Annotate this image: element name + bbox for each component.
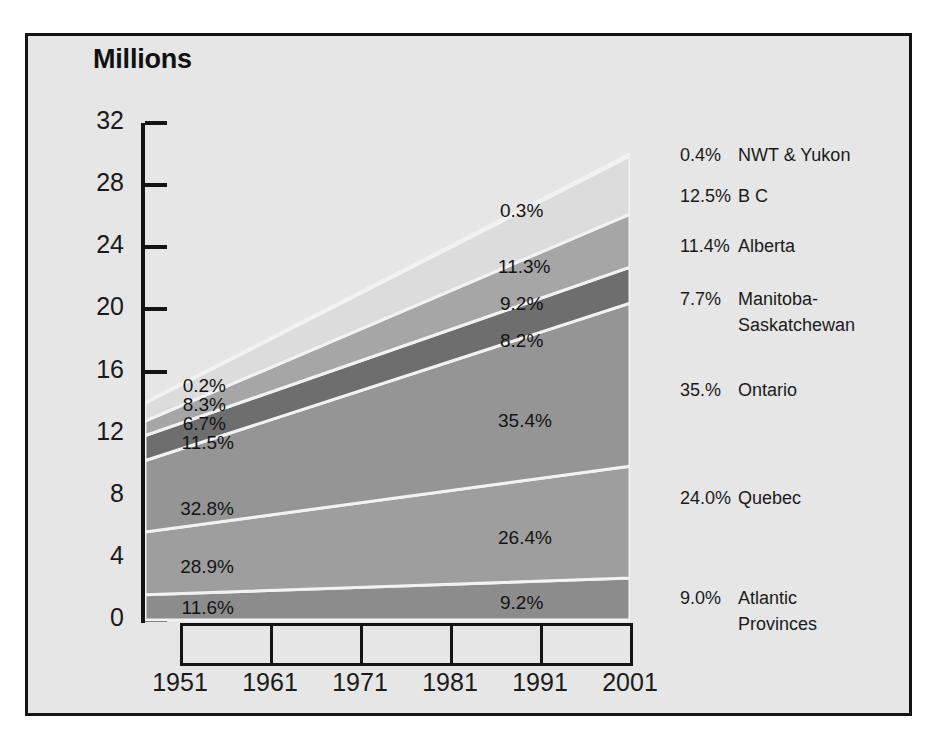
legend-label: Manitoba-	[738, 289, 818, 310]
x-axis-cell	[180, 623, 273, 666]
y-axis-tick-label: 32	[78, 106, 124, 135]
label-1981-alberta: 9.2%	[500, 293, 543, 315]
legend-label: Ontario	[738, 380, 797, 401]
legend-percent: 11.4%	[680, 236, 738, 257]
y-axis-tick-label: 28	[78, 168, 124, 197]
x-axis-cell	[360, 623, 453, 666]
legend-label: Atlantic	[738, 588, 797, 609]
x-axis-ladder	[180, 623, 630, 666]
legend-label: Alberta	[738, 236, 795, 257]
chart-screenshot: Millions 322824201612840 0.2%8.3%6.7%11.…	[0, 0, 932, 748]
legend-percent: 7.7%	[680, 289, 738, 310]
plot-area	[145, 120, 630, 623]
label-1981-manitoba-sask: 8.2%	[500, 330, 543, 352]
legend-percent: 12.5%	[680, 186, 738, 207]
label-1981-atlantic: 9.2%	[500, 592, 543, 614]
label-1951-manitoba-sask: 11.5%	[148, 432, 234, 454]
x-axis-cell	[450, 623, 543, 666]
legend-percent: 0.4%	[680, 145, 738, 166]
legend-label: NWT & Yukon	[738, 145, 850, 166]
x-axis-tick-label: 2001	[575, 668, 685, 697]
legend-percent: 24.0%	[680, 488, 738, 509]
stacked-area-bands	[145, 120, 630, 623]
y-axis-tick-label: 16	[78, 355, 124, 384]
label-1951-quebec: 28.9%	[148, 556, 234, 578]
legend-percent: 35.%	[680, 380, 738, 401]
legend-label-continued: Provinces	[738, 614, 817, 635]
x-axis-cell	[270, 623, 363, 666]
legend-label: Quebec	[738, 488, 801, 509]
legend-item: 7.7%Manitoba-	[680, 289, 818, 310]
label-1981-quebec: 26.4%	[498, 527, 552, 549]
page-title: Millions	[93, 44, 192, 75]
y-axis-tick-label: 4	[78, 541, 124, 570]
y-axis-tick-label: 8	[78, 479, 124, 508]
legend-item: 9.0%Atlantic	[680, 588, 797, 609]
label-1951-atlantic: 11.6%	[148, 597, 234, 619]
label-1981-ontario: 35.4%	[498, 410, 552, 432]
legend-label-continued: Saskatchewan	[738, 315, 855, 336]
y-axis-tick-label: 0	[78, 603, 124, 632]
y-axis-tick-label: 12	[78, 417, 124, 446]
legend-item: 35.%Ontario	[680, 380, 797, 401]
label-1951-ontario: 32.8%	[148, 498, 234, 520]
label-1981-nwt-yukon: 0.3%	[500, 200, 543, 222]
label-1981-bc: 11.3%	[498, 256, 550, 278]
legend-item: 24.0%Quebec	[680, 488, 801, 509]
legend-item: 11.4%Alberta	[680, 236, 795, 257]
x-axis-cell	[540, 623, 633, 666]
y-axis-tick-label: 20	[78, 292, 124, 321]
legend-item: 0.4%NWT & Yukon	[680, 145, 850, 166]
y-axis-tick-label: 24	[78, 230, 124, 259]
legend-label: B C	[738, 186, 768, 207]
legend-item: 12.5%B C	[680, 186, 768, 207]
legend-percent: 9.0%	[680, 588, 738, 609]
